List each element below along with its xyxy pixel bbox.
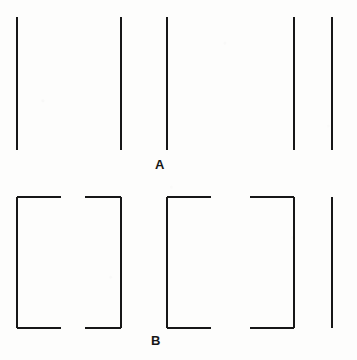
panel-label-b: B	[151, 334, 161, 347]
panel-a-strokes	[17, 17, 332, 150]
panel-b-strokes	[17, 197, 332, 328]
gestalt-figure-plate: A B	[0, 0, 357, 360]
figure-strokes-canvas	[0, 0, 357, 360]
panel-label-a: A	[155, 158, 165, 171]
